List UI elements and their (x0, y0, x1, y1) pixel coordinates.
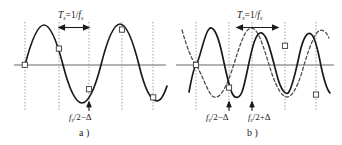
sample-marker (282, 43, 287, 48)
panel-a-caption: a ) (79, 128, 89, 138)
figure-svg (0, 0, 342, 145)
panel-b-frequency-pointers (227, 102, 254, 112)
pointer-head (87, 102, 91, 108)
panel-a-period-label: Ts=1/fs (58, 11, 83, 22)
freq-expression: /2−Δ (74, 112, 92, 122)
panel-b-period-label: Ts=1/fs (237, 11, 262, 22)
sample-marker (56, 46, 61, 51)
frequency-subscript: s (260, 15, 262, 21)
panel-b-caption: b ) (247, 128, 258, 138)
sample-marker (313, 92, 318, 97)
arrow-head-right (84, 25, 90, 30)
period-equals: =1/ (245, 10, 258, 20)
sample-marker (22, 62, 27, 67)
pointer-head (250, 102, 254, 108)
panel-b-frequency-label-minus: fs/2−Δ (206, 113, 229, 123)
panel-a (14, 22, 167, 111)
panel-a-sample-markers (22, 27, 156, 100)
arrow-head-right (273, 25, 279, 30)
panel-a-frequency-pointer (87, 102, 91, 112)
pointer-head (227, 102, 231, 108)
frequency-subscript: s (81, 15, 83, 21)
freq-expression: /2+Δ (253, 112, 271, 122)
panel-a-signal-curve (25, 24, 167, 103)
arrow-head-left (237, 25, 243, 30)
sample-marker (86, 87, 91, 92)
panel-b-frequency-label-plus: fs/2+Δ (248, 113, 271, 123)
panel-b (176, 22, 334, 111)
sample-marker (226, 85, 231, 90)
panel-b-period-arrow (237, 25, 278, 30)
freq-expression: /2−Δ (211, 112, 229, 122)
period-equals: =1/ (66, 10, 79, 20)
panel-a-frequency-label: fs/2−Δ (69, 113, 92, 123)
sampling-figure: Ts=1/fs fs/2−Δ a ) Ts=1/fs fs/2−Δ fs/2+Δ… (0, 0, 342, 145)
arrow-head-left (59, 25, 65, 30)
sample-marker (151, 95, 156, 100)
sample-marker (119, 27, 124, 32)
sample-marker (193, 62, 198, 67)
panel-a-period-arrow (59, 25, 89, 30)
